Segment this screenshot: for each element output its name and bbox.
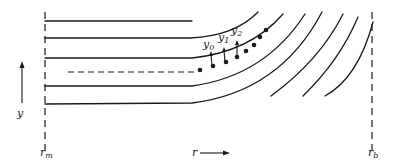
diagram-canvas (0, 0, 396, 166)
trajectory-point (264, 28, 269, 33)
trajectory-point (198, 68, 203, 73)
y2-subscript: 2 (237, 29, 242, 38)
r-axis-label: r (192, 147, 197, 158)
streamline-diagram: y r rm rb y0 y1 y2 (0, 0, 396, 166)
y-axis-arrow (20, 61, 25, 103)
y1-subscript: 1 (224, 36, 229, 45)
y2-label: y2 (231, 25, 242, 38)
outer-arc-1 (271, 14, 343, 96)
y0-label: y0 (203, 39, 214, 52)
y0-offset-arrow (209, 51, 213, 66)
y1-offset-arrow (222, 47, 226, 62)
y1-label: y1 (218, 32, 229, 45)
y2-offset-arrow (235, 40, 239, 57)
y0-subscript: 0 (209, 43, 214, 52)
r-b-subscript: b (373, 151, 378, 160)
outer-arc-2 (303, 17, 358, 96)
trajectory-point (258, 35, 263, 40)
r-b-label: rb (368, 147, 378, 160)
streamline-4 (45, 14, 305, 86)
trajectory-point (252, 43, 257, 48)
trajectory-point (244, 49, 249, 54)
r-m-subscript: m (45, 151, 53, 160)
r-axis-arrow (200, 151, 230, 156)
r-m-label: rm (40, 147, 53, 160)
y-axis-label: y (17, 108, 23, 119)
